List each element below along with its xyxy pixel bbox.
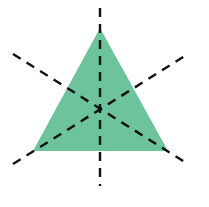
- symmetry-diagram: [0, 0, 209, 207]
